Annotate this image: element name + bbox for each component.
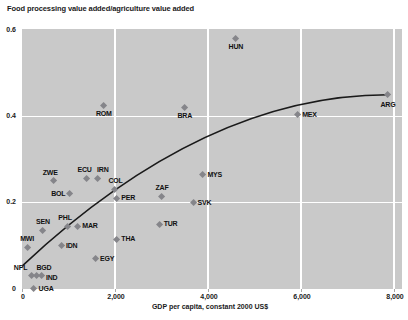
label-PER: PER — [121, 194, 135, 202]
label-MEX: MEX — [302, 111, 317, 119]
label-ROM: ROM — [96, 110, 112, 118]
label-MAR: MAR — [82, 222, 97, 230]
x-gridline-8000 — [393, 29, 395, 289]
label-BOL: BOL — [51, 190, 65, 198]
x-axis-title: GDP per capita, constant 2000 US$ — [152, 303, 268, 310]
label-UGA: UGA — [39, 285, 54, 293]
label-BGD: BGD — [36, 264, 51, 272]
label-IRN: IRN — [97, 166, 108, 174]
x-tick-label-0: 0 — [21, 293, 25, 300]
x-gridline-2000 — [114, 29, 116, 289]
x-tick-label-4000: 4,000 — [200, 293, 218, 300]
label-MWI: MWI — [20, 235, 34, 243]
y-tick-label-0.2: 0.2 — [0, 198, 16, 205]
label-SVK: SVK — [198, 199, 212, 207]
label-COL: COL — [108, 177, 122, 185]
label-ARG: ARG — [380, 101, 395, 109]
x-tick-label-6000: 6,000 — [293, 293, 311, 300]
label-PHL: PHL — [58, 214, 71, 222]
scatter-chart: Food processing value added/agriculture … — [0, 0, 408, 320]
y-tick-label-0.4: 0.4 — [0, 112, 16, 119]
label-IDN: IDN — [66, 242, 77, 250]
label-ZAF: ZAF — [155, 184, 168, 192]
x-gridline-6000 — [300, 29, 302, 289]
label-TUR: TUR — [164, 220, 178, 228]
y-gridline-0.2 — [22, 202, 402, 204]
label-NPL: NPL — [14, 264, 27, 272]
x-tick-label-2000: 2,000 — [107, 293, 125, 300]
plot-area — [22, 29, 402, 289]
label-ECU: ECU — [78, 166, 92, 174]
label-THA: THA — [121, 235, 135, 243]
y-gridline-0.4 — [22, 116, 402, 118]
x-tick-label-8000: 8,000 — [386, 293, 404, 300]
x-gridline-4000 — [207, 29, 209, 289]
label-IND: IND — [46, 274, 57, 282]
label-SEN: SEN — [36, 218, 50, 226]
label-MYS: MYS — [207, 171, 222, 179]
label-ZWE: ZWE — [43, 169, 58, 177]
y-tick-label-0.6: 0.6 — [0, 26, 16, 33]
label-HUN: HUN — [229, 43, 244, 51]
y-tick-label-0: 0 — [0, 285, 16, 292]
chart-title: Food processing value added/agriculture … — [7, 4, 194, 13]
label-EGY: EGY — [100, 255, 114, 263]
label-BRA: BRA — [177, 112, 192, 120]
